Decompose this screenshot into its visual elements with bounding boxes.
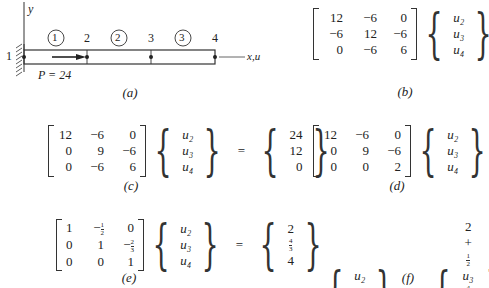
denominator: 2 (466, 261, 470, 268)
fraction: 23 (131, 239, 135, 254)
vector-cell: 12 (287, 143, 304, 159)
stiffness-matrix-c: 12 −6 0 0 9 −6 0 −6 6 (54, 127, 140, 175)
vector-cell: u₃ (445, 143, 460, 159)
node-1-dot (22, 55, 26, 59)
equation-e: 1 −12 0 0 1 −23 0 0 1 { u₂ u₃ u₄ } = { 2… (56, 219, 330, 271)
matrix-cell: 0 (54, 143, 76, 159)
x-axis-label: x,u (247, 50, 260, 62)
rhs-vector-c: 24 12 0 (287, 127, 304, 175)
unknowns-vector-e: u₂ u₃ u₄ (178, 221, 193, 269)
vector-cell: u₃ (180, 143, 195, 159)
node-4-dot (213, 55, 217, 59)
fraction: 12 (466, 253, 470, 268)
equals-sign: = (228, 237, 251, 253)
node-label-3: 3 (148, 31, 154, 46)
vector-cell: 43 (285, 237, 296, 254)
caption-b: (b) (390, 84, 420, 100)
right-brace: } (202, 220, 219, 270)
term: 2 (465, 219, 472, 234)
matrix-cell: −6 (76, 127, 108, 143)
stiffness-matrix-b: 12 −6 0 −6 12 −6 0 −6 6 (319, 10, 411, 58)
matrix-cell: 9 (341, 143, 373, 159)
load-label: P = 24 (38, 68, 71, 83)
variable: u₃ (463, 268, 474, 283)
vector-cell: u₄ (445, 159, 460, 175)
matrix-cell: 12 (347, 26, 381, 42)
left-brace: { (327, 267, 344, 288)
unknowns-vector-c: u₂ u₃ u₄ (180, 127, 195, 175)
vector-cell: u₄ (178, 253, 193, 269)
element-label-1: 1 (52, 31, 58, 43)
node-label-2: 2 (84, 31, 90, 46)
right-bracket (140, 125, 146, 177)
unknowns-vector-b: u₂ u₃ u₄ (451, 10, 466, 58)
matrix-cell: 0 (319, 159, 341, 175)
equation-d: 12 −6 0 0 9 −6 0 0 2 { u₂ u₃ u₄ } = { 24… (313, 125, 489, 177)
right-brace: } (469, 126, 486, 176)
equation-c: 12 −6 0 0 9 −6 0 −6 6 { u₂ u₃ u₄ } = { 2… (48, 125, 339, 177)
matrix-cell: 0 (62, 237, 78, 254)
matrix-cell: −6 (373, 143, 405, 159)
matrix-cell: 0 (54, 159, 76, 175)
matrix-cell: 0 (78, 254, 108, 270)
caption-a: (a) (115, 85, 145, 101)
fraction: 43 (289, 238, 293, 253)
right-brace: } (376, 267, 393, 288)
matrix-cell: 12 (54, 127, 76, 143)
left-brace: { (420, 126, 437, 176)
matrix-cell: −6 (108, 143, 140, 159)
left-brace: { (260, 220, 277, 270)
equals-sign: = (230, 143, 253, 159)
matrix-cell: 12 (319, 127, 341, 143)
load-arrowhead (76, 54, 86, 60)
matrix-cell: 0 (341, 159, 373, 175)
matrix-cell: −6 (347, 42, 381, 58)
vector-cell: u₄ (180, 159, 195, 175)
element-label-2: 2 (115, 31, 121, 43)
vector-cell: u₂ (352, 268, 367, 284)
matrix-cell: 0 (108, 220, 138, 237)
left-brace: { (155, 126, 172, 176)
minus-sign: − (123, 237, 130, 252)
matrix-cell: 1 (62, 220, 78, 237)
y-axis-label: y (28, 2, 33, 17)
normalized-matrix-e: 1 −12 0 0 1 −23 0 0 1 (62, 220, 138, 269)
vector-cell: 2 (285, 221, 296, 237)
vector-cell: 4 (285, 253, 296, 269)
left-brace: { (153, 220, 170, 270)
denominator: 3 (289, 246, 293, 253)
vector-cell: u₄ (451, 42, 466, 58)
equation-b: 12 −6 0 −6 12 −6 0 −6 6 { u₂ u₃ u₄ } = {… (313, 8, 489, 60)
matrix-cell: −12 (78, 220, 108, 237)
rhs-vector-e: 2 43 4 (285, 221, 296, 270)
matrix-cell: 6 (108, 159, 140, 175)
vector-cell: u₂ (445, 127, 460, 143)
denominator: 3 (131, 247, 135, 254)
left-brace: { (426, 9, 443, 59)
unknowns-vector-f: u₂ u₃ u₄ (352, 268, 367, 288)
stiffness-matrix-d: 12 −6 0 0 9 −6 0 0 2 (319, 127, 405, 175)
matrix-cell: 0 (381, 10, 411, 26)
back-substitution-vector: 2 + 12 u₃ 43 + 23 u₄ 4 (459, 219, 476, 288)
matrix-cell: −6 (319, 26, 347, 42)
node-3-dot (149, 55, 153, 59)
matrix-cell: 1 (78, 237, 108, 254)
matrix-cell: −23 (108, 237, 138, 254)
matrix-cell: −6 (76, 159, 108, 175)
left-brace: { (262, 126, 279, 176)
vector-cell: u₃ (352, 284, 367, 288)
matrix-cell: −6 (347, 10, 381, 26)
right-bracket (405, 125, 411, 177)
operator: + (461, 235, 474, 250)
matrix-cell: 0 (108, 127, 140, 143)
matrix-cell: 6 (381, 42, 411, 58)
right-brace: } (485, 267, 489, 288)
unknowns-vector-d: u₂ u₃ u₄ (445, 127, 460, 175)
matrix-cell: 0 (319, 42, 347, 58)
element-label-3: 3 (179, 31, 185, 43)
right-brace: } (204, 126, 221, 176)
vector-cell: 0 (287, 159, 304, 175)
vector-cell: u₃ (178, 237, 193, 253)
vector-cell: u₂ (451, 10, 466, 26)
caption-c: (c) (116, 178, 146, 194)
